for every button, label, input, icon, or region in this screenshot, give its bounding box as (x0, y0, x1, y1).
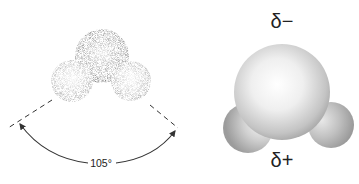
shaded-water-model: δ− δ+ (223, 10, 354, 171)
hydrogen-atom-left-stippled (51, 60, 93, 102)
bond-axis-right-dashed (150, 105, 178, 128)
partial-negative-charge-label: δ− (271, 10, 294, 32)
bond-angle-label: 105° (90, 157, 112, 169)
angle-arc-left (20, 124, 88, 163)
angle-arc-right (116, 131, 175, 163)
oxygen-atom-shaded (234, 44, 330, 140)
water-molecule-diagram: 105° δ− δ+ (0, 0, 359, 184)
hydrogen-atom-right-stippled (111, 61, 151, 101)
stippled-water-model: 105° (8, 29, 178, 169)
partial-positive-charge-label: δ+ (271, 149, 294, 171)
bond-axis-left-dashed (8, 100, 52, 128)
